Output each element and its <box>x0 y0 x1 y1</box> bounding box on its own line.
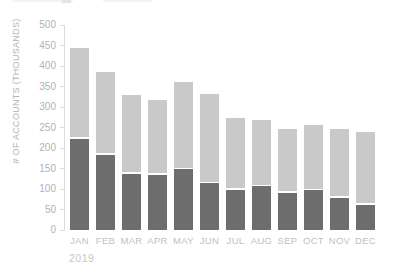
x-axis-tick-label-oct: OCT <box>301 236 327 246</box>
cropped-top-artifact-swatch <box>62 0 71 3</box>
bar-segment-light-jan <box>70 48 89 138</box>
bar-segment-dark-jul <box>226 190 245 230</box>
y-axis-tick-label: 200 <box>24 143 56 153</box>
x-axis-tick-label-feb: FEB <box>93 236 119 246</box>
y-axis-title: # OF ACCOUNTS (THOUSANDS) <box>11 18 21 163</box>
bar-segment-light-feb <box>96 72 115 153</box>
bar-segment-light-may <box>174 82 193 168</box>
bar-segment-light-jun <box>200 94 219 181</box>
y-axis-tick-mark <box>60 209 64 210</box>
bar-segment-dark-mar <box>122 174 141 230</box>
y-axis-tick-label: 400 <box>24 61 56 71</box>
bar-segment-light-aug <box>252 120 271 184</box>
bar-segment-light-oct <box>304 125 323 188</box>
y-axis-tick-label: 450 <box>24 41 56 51</box>
y-axis-tick-mark <box>60 127 64 128</box>
y-axis-tick-label: 50 <box>24 205 56 215</box>
y-axis-line <box>64 25 65 231</box>
y-axis-tick-label: 350 <box>24 82 56 92</box>
bar-segment-light-apr <box>148 100 167 174</box>
bar-segment-dark-jun <box>200 183 219 230</box>
y-axis-tick-label: 500 <box>24 20 56 30</box>
y-axis-tick-label: 300 <box>24 102 56 112</box>
y-axis-tick-mark <box>60 148 64 149</box>
x-axis-tick-label-jan: JAN <box>67 236 93 246</box>
x-axis-tick-label-aug: AUG <box>249 236 275 246</box>
bar-segment-light-jul <box>226 118 245 188</box>
y-axis-tick-label: 250 <box>24 123 56 133</box>
y-axis-tick-label: 150 <box>24 164 56 174</box>
y-axis-tick-mark <box>60 189 64 190</box>
cropped-top-artifact-right <box>103 0 152 2</box>
x-axis-tick-label-sep: SEP <box>275 236 301 246</box>
bar-segment-light-nov <box>330 129 349 197</box>
x-axis-tick-label-jun: JUN <box>197 236 223 246</box>
bar-segment-light-dec <box>356 132 375 203</box>
bar-segment-dark-feb <box>96 155 115 230</box>
bar-segment-dark-oct <box>304 190 323 230</box>
x-axis-tick-label-mar: MAR <box>119 236 145 246</box>
bar-segment-light-mar <box>122 95 141 172</box>
x-axis-tick-label-jul: JUL <box>223 236 249 246</box>
y-axis-tick-mark <box>60 86 64 87</box>
y-axis-tick-mark <box>60 107 64 108</box>
y-axis-tick-mark <box>60 45 64 46</box>
y-axis-tick-mark <box>60 25 64 26</box>
bar-segment-dark-jan <box>70 139 89 230</box>
x-axis-tick-label-apr: APR <box>145 236 171 246</box>
y-axis-tick-label: 100 <box>24 184 56 194</box>
y-axis-tick-mark <box>60 230 64 231</box>
stacked-bar-chart: # OF ACCOUNTS (THOUSANDS) 05010015020025… <box>0 0 397 279</box>
x-axis-tick-label-dec: DEC <box>353 236 379 246</box>
bar-segment-dark-sep <box>278 193 297 230</box>
bar-segment-dark-aug <box>252 186 271 230</box>
bar-segment-dark-may <box>174 169 193 230</box>
y-axis-tick-mark <box>60 66 64 67</box>
y-axis-tick-mark <box>60 168 64 169</box>
bar-segment-dark-nov <box>330 198 349 230</box>
x-axis-tick-label-may: MAY <box>171 236 197 246</box>
bar-segment-dark-dec <box>356 205 375 230</box>
y-axis-tick-label: 0 <box>24 225 56 235</box>
x-axis-year-label: 2019 <box>69 252 94 264</box>
bar-segment-light-sep <box>278 129 297 191</box>
x-axis-tick-label-nov: NOV <box>327 236 353 246</box>
bar-segment-dark-apr <box>148 175 167 230</box>
